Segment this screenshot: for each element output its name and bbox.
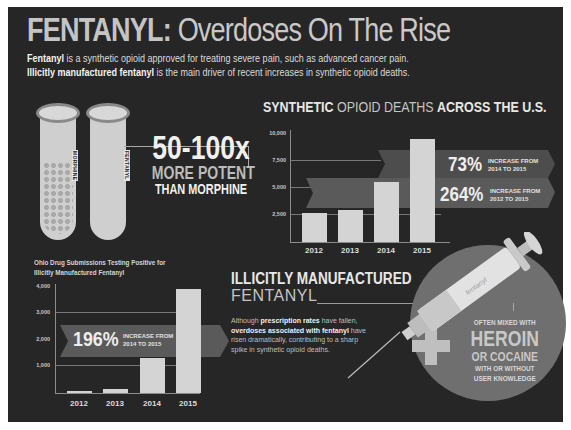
us-title-bold1: SYNTHETIC	[263, 98, 334, 115]
y-tick: 10,000	[260, 130, 286, 136]
tube-rim-icon	[86, 103, 130, 123]
ribbon-line1: INCREASE FROM	[123, 332, 173, 340]
bar-2013	[103, 389, 128, 393]
ribbon-sub: INCREASE FROM 2012 TO 2015	[490, 187, 540, 203]
potency-big: 50-100x	[152, 130, 250, 164]
x-label: 2014	[137, 399, 167, 408]
intro-bold-1: Fentanyl	[27, 53, 64, 64]
y-tick: 3,000	[24, 309, 50, 315]
body-bold: overdoses associated with fentanyl	[231, 327, 349, 334]
x-label: 2013	[100, 399, 130, 408]
y-tick: 2,000	[24, 336, 50, 342]
morphine-tube-icon	[40, 112, 76, 240]
x-label: 2012	[299, 246, 329, 255]
page-title: FENTANYL: Overdoses On The Rise	[27, 12, 450, 48]
bar-2015	[410, 139, 435, 242]
us-chart-title: SYNTHETIC OPIOID DEATHS ACROSS THE U.S.	[263, 98, 546, 115]
ribbon-line2: 2014 TO 2015	[123, 340, 173, 348]
x-label: 2015	[173, 399, 203, 408]
x-axis	[55, 393, 200, 394]
y-tick: 7,500	[260, 157, 286, 163]
y-axis	[55, 284, 56, 394]
intro-text: Fentanyl is a synthetic opioid approved …	[27, 52, 410, 80]
ribbon-sub: INCREASE FROM 2014 TO 2015	[123, 332, 173, 348]
intro-rest-2: is the main driver of recent increases i…	[154, 67, 410, 78]
mix-line3: OR COCAINE	[471, 350, 539, 364]
y-axis	[290, 130, 291, 243]
title-rest: Overdoses On The Rise	[171, 11, 450, 48]
ohio-title-line1: Ohio Drug Submissions Testing Positive f…	[34, 258, 165, 268]
ribbon-line1: INCREASE FROM	[490, 187, 540, 195]
x-label: 2012	[64, 399, 94, 408]
ribbon-line2: 2012 TO 2015	[490, 195, 540, 203]
body-text: Although	[231, 317, 261, 324]
bar-2012	[302, 213, 327, 242]
mix-line5: USER KNOWLEDGE	[471, 374, 539, 384]
ribbon-line2: 2014 TO 2015	[488, 165, 538, 173]
morphine-dots	[43, 162, 73, 234]
morphine-label: MORPHINE	[72, 150, 78, 181]
ribbon-pct: 73%	[448, 153, 482, 176]
bar-2012	[67, 391, 92, 393]
title-bold: FENTANYL:	[27, 11, 171, 48]
fentanyl-label: FENTANYL	[124, 150, 130, 181]
us-title-bold2: ACROSS THE U.S.	[437, 98, 546, 115]
bar-2015	[176, 289, 201, 393]
ribbon-pct: 196%	[73, 327, 119, 351]
mix-line2: HEROIN	[471, 328, 539, 350]
intro-rest-1: is a synthetic opioid approved for treat…	[64, 53, 409, 64]
illicit-subheading: FENTANYL	[231, 287, 317, 304]
ohio-chart-title: Ohio Drug Submissions Testing Positive f…	[34, 258, 165, 278]
mix-line4: WITH OR WITHOUT	[471, 364, 539, 374]
ohio-title-line2: Illicitly Manufactured Fentanyl	[34, 268, 165, 278]
bar-2014	[140, 358, 165, 393]
us-title-light: OPIOID DEATHS	[334, 98, 438, 115]
ribbon-line1: INCREASE FROM	[488, 157, 538, 165]
y-tick: 5,000	[260, 184, 286, 190]
y-tick: 1,000	[24, 362, 50, 368]
intro-bold-2: Illicitly manufactured fentanyl	[27, 67, 154, 78]
potency-callout: 50-100x MORE POTENT THAN MORPHINE	[138, 130, 264, 197]
gridline	[56, 312, 176, 313]
tube-rim-icon	[36, 103, 80, 123]
potency-small: THAN MORPHINE	[152, 182, 250, 197]
fentanyl-tube-icon	[90, 112, 126, 240]
ribbon-sub: INCREASE FROM 2014 TO 2015	[488, 157, 538, 173]
mix-text: OFTEN MIXED WITH HEROIN OR COCAINE WITH …	[462, 318, 548, 384]
ribbon-pct: 264%	[440, 183, 483, 206]
potency-mid: MORE POTENT	[152, 164, 250, 182]
y-tick: 4,000	[24, 283, 50, 289]
y-tick: 2,500	[260, 211, 286, 217]
body-bold: prescription rates	[261, 317, 320, 324]
